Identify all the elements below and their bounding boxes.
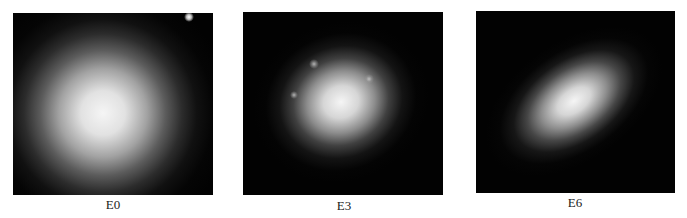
galaxy-image-e6: [476, 11, 675, 193]
galaxy-e3: [243, 12, 443, 195]
foreground-star: [364, 74, 374, 84]
galaxy-e6: [476, 11, 675, 193]
caption-e3: E3: [314, 199, 374, 213]
galaxy-image-e3: [243, 12, 443, 195]
foreground-star: [290, 91, 298, 99]
foreground-star: [309, 59, 319, 69]
galaxy-image-e0: [13, 13, 213, 195]
caption-e0: E0: [83, 198, 143, 212]
caption-e6: E6: [545, 196, 605, 210]
galaxy-e0: [13, 13, 213, 195]
